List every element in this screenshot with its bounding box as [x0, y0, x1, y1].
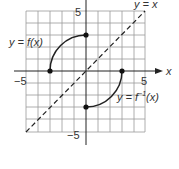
label-y-equals-x: y = x — [133, 0, 158, 10]
label-f: y = f(x) — [8, 36, 43, 48]
point-f-start — [47, 68, 52, 73]
axes — [14, 0, 163, 145]
curve-f — [50, 35, 86, 71]
point-finv-start — [83, 104, 88, 109]
x-axis-label: x — [165, 65, 172, 77]
tick-y-pos: 5 — [75, 6, 81, 18]
x-axis-arrow-icon — [155, 68, 163, 74]
tick-x-pos: 5 — [141, 75, 147, 87]
graph-canvas: 5 −5 −5 5 x y = x y = f(x) y = f−1(x) — [0, 0, 179, 169]
point-finv-end — [119, 68, 124, 73]
point-f-end — [83, 32, 88, 37]
tick-x-neg: −5 — [14, 75, 27, 87]
tick-y-neg: −5 — [67, 129, 80, 141]
label-f-inverse: y = f−1(x) — [116, 90, 159, 103]
